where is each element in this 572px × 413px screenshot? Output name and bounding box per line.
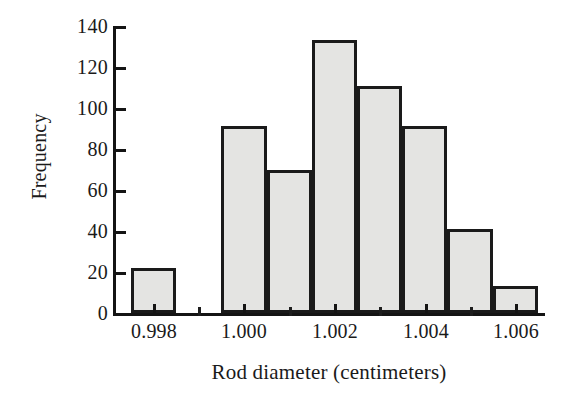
y-tick-label-20: 20: [46, 262, 108, 282]
y-tick-label-140: 140: [46, 16, 108, 36]
x-tick-1.002: [334, 304, 337, 316]
x-tick-1.004: [425, 304, 428, 316]
y-tick-100: [116, 108, 126, 111]
y-tick-140: [116, 26, 126, 29]
y-tick-label-100: 100: [46, 98, 108, 118]
y-tick-40: [116, 231, 126, 234]
y-tick-label-120-wrap: 120: [38, 57, 108, 77]
y-tick-label-40: 40: [46, 221, 108, 241]
x-tick-1.000: [243, 304, 246, 316]
y-tick-label-0: 0: [46, 303, 108, 323]
y-tick-20: [116, 272, 126, 275]
x-tick-minor-1.003: [379, 307, 382, 316]
y-tick-label-20-wrap: 20: [38, 262, 108, 282]
y-tick-60: [116, 190, 126, 193]
bar-bin-3: [267, 170, 312, 314]
x-tick-minor-1.001: [289, 307, 292, 316]
y-tick-label-60: 60: [46, 180, 108, 200]
x-axis-title: Rod diameter (centimeters): [113, 360, 545, 385]
y-tick-120: [116, 67, 126, 70]
bar-bin-5: [357, 86, 402, 314]
y-tick-label-80: 80: [46, 139, 108, 159]
x-axis-line: [113, 313, 545, 316]
bar-bin-4: [312, 40, 357, 313]
chart-page: 140 120 100 80 60 40 20 0: [0, 0, 572, 413]
x-tick-minor-1.005: [470, 307, 473, 316]
bar-bin-7: [447, 229, 492, 313]
x-tick-minor-0.999: [198, 307, 201, 316]
y-tick-80: [116, 149, 126, 152]
y-tick-label-120: 120: [46, 57, 108, 77]
x-tick-label-1.002: 1.002: [290, 320, 380, 343]
x-tick-label-1.006: 1.006: [471, 320, 561, 343]
x-tick-0.998: [153, 304, 156, 316]
y-axis-title: Frequency: [28, 77, 51, 237]
bar-bin-2: [221, 126, 266, 313]
y-tick-label-140-wrap: 140: [38, 16, 108, 36]
x-tick-label-0.998: 0.998: [109, 320, 199, 343]
histogram-plot: 140 120 100 80 60 40 20 0: [0, 0, 572, 413]
x-tick-label-1.000: 1.000: [199, 320, 289, 343]
y-tick-label-0-wrap: 0: [38, 303, 108, 323]
x-tick-1.006: [515, 304, 518, 316]
bar-bin-6: [402, 126, 447, 313]
x-tick-label-1.004: 1.004: [381, 320, 471, 343]
